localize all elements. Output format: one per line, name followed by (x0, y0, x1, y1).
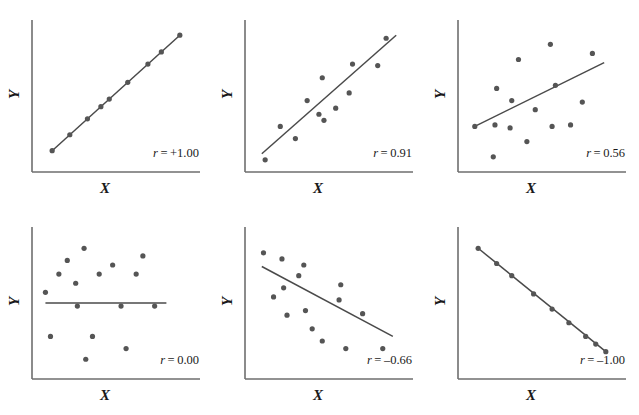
data-point (125, 80, 130, 85)
data-point (350, 61, 355, 66)
data-point (305, 98, 310, 103)
data-point (278, 124, 283, 129)
data-point (284, 313, 289, 318)
data-point (494, 261, 499, 266)
data-point (56, 272, 61, 277)
correlation-annotation: r = 0.56 (586, 146, 625, 161)
y-axis-label: Y (219, 292, 236, 312)
r-value: 0.00 (177, 353, 199, 367)
data-point (590, 51, 595, 56)
data-point (152, 303, 157, 308)
data-point (509, 273, 514, 278)
regression-line (262, 267, 393, 337)
data-point (580, 99, 585, 104)
data-point (516, 57, 521, 62)
data-point (67, 132, 72, 137)
data-point (320, 338, 325, 343)
data-point (320, 75, 325, 80)
scatter-panel: XYr = 0.91 (213, 0, 426, 207)
data-point (73, 281, 78, 286)
y-axis-label: Y (6, 85, 23, 105)
r-value: 0.56 (603, 146, 625, 160)
data-point (494, 86, 499, 91)
y-axis-label: Y (432, 85, 449, 105)
data-point (83, 357, 88, 362)
data-point (123, 346, 128, 351)
data-point (145, 61, 150, 66)
y-axis-label: Y (6, 292, 23, 312)
scatter-panel: XYr = 0.00 (0, 207, 213, 414)
data-point (75, 303, 80, 308)
data-point (261, 250, 266, 255)
data-point (296, 273, 301, 278)
data-point (293, 136, 298, 141)
data-point (310, 326, 315, 331)
data-point (303, 308, 308, 313)
data-point (140, 253, 145, 258)
scatter-panel: XYr = –1.00 (426, 207, 639, 414)
r-value: –1.00 (597, 353, 625, 367)
correlation-annotation: r = –1.00 (580, 353, 625, 368)
correlation-annotation: r = 0.91 (373, 146, 412, 161)
plot-area (0, 0, 213, 207)
r-value: +1.00 (170, 146, 199, 160)
data-point (553, 83, 558, 88)
data-point (134, 272, 139, 277)
data-point (548, 42, 553, 47)
equals-glyph: = (594, 146, 601, 160)
data-point (533, 107, 538, 112)
data-point (384, 36, 389, 41)
data-point (97, 272, 102, 277)
x-axis-label: X (313, 387, 323, 404)
scatter-panel: XYr = 0.56 (426, 0, 639, 207)
data-point (316, 112, 321, 117)
data-point (593, 341, 598, 346)
correlation-annotation: r = –0.66 (367, 353, 412, 368)
data-point (507, 125, 512, 130)
data-point (301, 262, 306, 267)
data-point (509, 98, 514, 103)
data-point (380, 346, 385, 351)
scatter-panel: XYr = +1.00 (0, 0, 213, 207)
y-axis-label: Y (432, 292, 449, 312)
plot-area (0, 207, 213, 414)
x-axis-label: X (313, 180, 323, 197)
data-point (279, 256, 284, 261)
data-point (90, 334, 95, 339)
data-point (360, 311, 365, 316)
data-point (271, 294, 276, 299)
scatter-panel: XYr = –0.66 (213, 207, 426, 414)
data-point (281, 285, 286, 290)
data-point (48, 334, 53, 339)
data-point (85, 116, 90, 121)
data-point (321, 118, 326, 123)
equals-glyph: = (168, 353, 175, 367)
data-point (472, 124, 477, 129)
x-axis-label: X (526, 180, 536, 197)
data-point (476, 246, 481, 251)
plot-area (213, 0, 426, 207)
data-point (491, 154, 496, 159)
x-axis-label: X (526, 387, 536, 404)
y-axis-label: Y (219, 85, 236, 105)
data-point (50, 148, 55, 153)
data-point (568, 122, 573, 127)
data-point (81, 246, 86, 251)
data-point (583, 334, 588, 339)
equals-glyph: = (160, 146, 167, 160)
data-point (263, 157, 268, 162)
data-point (336, 297, 341, 302)
plot-area (426, 0, 639, 207)
data-point (110, 262, 115, 267)
data-point (549, 306, 554, 311)
data-point (107, 96, 112, 101)
regression-line (475, 63, 604, 127)
data-point (492, 122, 497, 127)
regression-line (262, 35, 396, 154)
data-point (333, 106, 338, 111)
data-point (338, 282, 343, 287)
data-point (65, 258, 70, 263)
plot-area (213, 207, 426, 414)
data-point (566, 320, 571, 325)
r-value: 0.91 (390, 146, 412, 160)
